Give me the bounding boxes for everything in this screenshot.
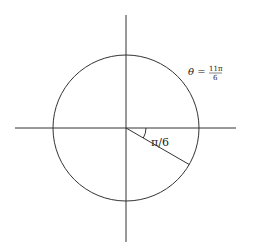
theta-label: θ =: [188, 66, 206, 77]
theta-numerator: 11π: [209, 65, 223, 73]
reference-angle-label: π/6: [151, 136, 169, 149]
angle-arc: [143, 128, 146, 138]
unit-circle-diagram: π/6 θ = 11π 6: [0, 0, 271, 251]
theta-denominator: 6: [213, 74, 218, 82]
